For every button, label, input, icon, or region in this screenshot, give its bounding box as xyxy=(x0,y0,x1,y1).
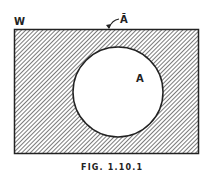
complement-label: Ā xyxy=(120,13,128,25)
complement-pointer-arrow xyxy=(109,19,119,28)
venn-diagram: W A Ā FIG. 1.10.1 xyxy=(0,0,211,180)
universe-label: W xyxy=(14,16,25,27)
set-a-circle xyxy=(73,47,163,137)
figure-caption: FIG. 1.10.1 xyxy=(81,163,143,172)
set-a-label: A xyxy=(136,73,144,84)
arrowhead-icon xyxy=(106,24,111,29)
